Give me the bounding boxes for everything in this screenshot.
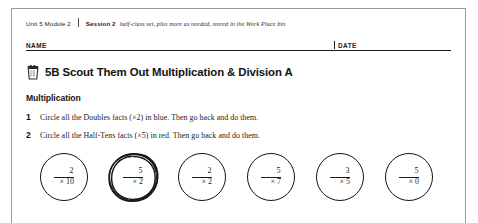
problem-expression: 3 × 5: [316, 153, 364, 201]
problem-operand-top: 5: [123, 167, 144, 176]
unit-module-label: Unit 5 Module 2: [26, 20, 71, 27]
problem-operand-bottom: × 7: [261, 177, 281, 187]
problem-operand-top: 5: [399, 167, 420, 176]
problem-item[interactable]: 3 × 5: [316, 153, 364, 201]
problem-item[interactable]: 5 × 0: [385, 153, 433, 201]
session-label: Session 2: [86, 20, 116, 27]
problem-operand-top: 2: [192, 167, 213, 176]
problem-operand-bottom: × 2: [123, 177, 143, 187]
problem-row: 2 × 10 5 × 2 2 × 2: [26, 153, 451, 207]
section-heading: Multiplication: [26, 93, 451, 103]
problem-expression: 5 × 2: [109, 153, 157, 201]
worksheet-content: Unit 5 Module 2 Session 2 half-class set…: [12, 17, 465, 211]
problem-expression: 5 × 0: [385, 153, 433, 201]
problem-expression: 2 × 2: [178, 153, 226, 201]
instruction-text: Circle all the Half-Tens facts (×5) in r…: [40, 131, 260, 140]
problem-item[interactable]: 5 × 7: [247, 153, 295, 201]
instruction-text: Circle all the Doubles facts (×2) in blu…: [40, 113, 258, 122]
problem-item[interactable]: 2 × 10: [40, 153, 88, 201]
problem-operand-bottom: × 10: [54, 177, 74, 187]
instruction-item: 1 Circle all the Doubles facts (×2) in b…: [26, 112, 451, 130]
instruction-number: 2: [26, 130, 40, 140]
problem-operand-bottom: × 2: [192, 177, 212, 187]
page-title: 5B Scout Them Out Multiplication & Divis…: [26, 62, 451, 82]
problem-expression: 2 × 10: [40, 153, 88, 201]
session-note: half-class set, plus more as needed, sto…: [120, 20, 286, 27]
name-date-line: NAME DATE: [26, 37, 451, 51]
instruction-item: 2 Circle all the Half-Tens facts (×5) in…: [26, 130, 451, 148]
problem-item[interactable]: 2 × 2: [178, 153, 226, 201]
problem-operand-bottom: × 5: [330, 177, 350, 187]
name-label: NAME: [26, 42, 47, 50]
running-head: Unit 5 Module 2 Session 2 half-class set…: [26, 17, 451, 32]
page-title-text: 5B Scout Them Out Multiplication & Divis…: [45, 66, 293, 78]
problem-operand-bottom: × 0: [399, 177, 419, 187]
work-place-bin-icon: [26, 65, 40, 80]
problem-operand-top: 5: [261, 167, 282, 176]
problem-operand-top: 3: [330, 167, 351, 176]
problem-operand-top: 2: [54, 167, 75, 176]
worksheet-page: Unit 5 Module 2 Session 2 half-class set…: [11, 8, 466, 211]
header-divider: [78, 18, 79, 27]
problem-item[interactable]: 5 × 2: [109, 153, 157, 201]
date-divider: [334, 41, 335, 49]
date-label: DATE: [338, 42, 357, 49]
problem-expression: 5 × 7: [247, 153, 295, 201]
date-group: DATE: [334, 41, 357, 49]
instruction-number: 1: [26, 112, 40, 122]
instruction-list: 1 Circle all the Doubles facts (×2) in b…: [26, 112, 451, 148]
